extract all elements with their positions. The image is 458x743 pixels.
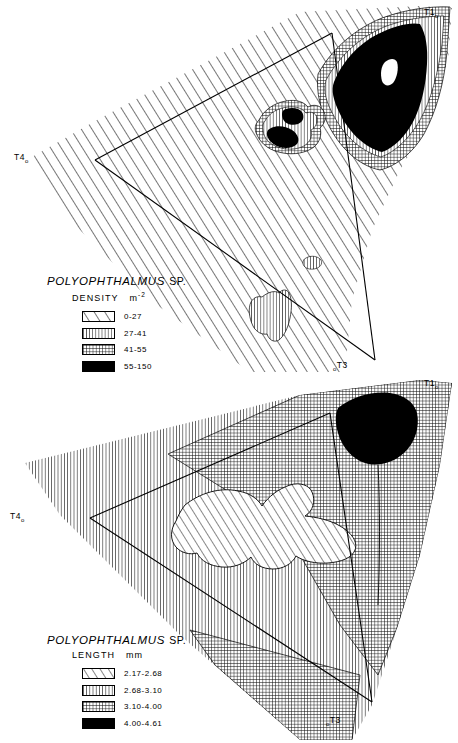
density-legend-units: DENSITY m-2: [72, 291, 186, 303]
legend-row: 55-150: [82, 360, 186, 373]
panel-length: T1o T4o oT3 POLYOPHTHALMUS SP. LENGTH mm: [0, 375, 458, 743]
length-corner-label-t1: T1o: [424, 378, 439, 390]
density-legend: POLYOPHTHALMUS SP. DENSITY m-2 0-27: [47, 271, 186, 376]
swatch-crosshatch-icon: [82, 701, 115, 712]
swatch-vertical-lines-icon: [82, 685, 115, 696]
figure-root: T1o T4o oT3 POLYOPHTHALMUS SP. DENSITY m…: [0, 0, 458, 743]
length-corner-label-t4: T4o: [10, 511, 25, 523]
legend-label: 0-27: [124, 312, 142, 321]
legend-label: 41-55: [124, 345, 147, 354]
legend-label: 4.00-4.61: [124, 719, 162, 728]
density-corner-label-t3: oT3: [333, 360, 348, 372]
density-legend-rows: 0-27 27-41 41-55 55-150: [82, 310, 186, 373]
density-corner-label-t4: T4o: [14, 152, 29, 164]
density-legend-title: POLYOPHTHALMUS SP.: [47, 271, 186, 289]
swatch-vertical-lines-icon: [82, 328, 115, 339]
legend-label: 2.68-3.10: [124, 686, 162, 695]
legend-row: 41-55: [82, 343, 186, 356]
swatch-crosshatch-icon: [82, 344, 115, 355]
length-corner-label-t3: oT3: [326, 715, 341, 727]
swatch-diagonal-hatch-icon: [82, 311, 115, 322]
swatch-solid-black-icon: [82, 718, 115, 729]
density-corner-label-t1: T1o: [424, 7, 439, 19]
legend-label: 3.10-4.00: [124, 702, 162, 711]
density-class-27-41-patch-mid: [303, 256, 322, 269]
legend-row: 2.17-2.68: [82, 667, 186, 680]
legend-label: 2.17-2.68: [124, 669, 162, 678]
legend-row: 4.00-4.61: [82, 717, 186, 730]
panel-density: T1o T4o oT3 POLYOPHTHALMUS SP. DENSITY m…: [0, 0, 458, 375]
legend-row: 2.68-3.10: [82, 684, 186, 697]
length-legend-rows: 2.17-2.68 2.68-3.10 3.10-4.00 4.00-: [82, 667, 186, 730]
length-legend-title: POLYOPHTHALMUS SP.: [47, 630, 186, 648]
length-legend-units: LENGTH mm: [72, 650, 186, 660]
legend-row: 27-41: [82, 327, 186, 340]
legend-row: 0-27: [82, 310, 186, 323]
length-legend: POLYOPHTHALMUS SP. LENGTH mm 2.17-2.68: [47, 630, 186, 733]
legend-label: 27-41: [124, 329, 147, 338]
swatch-diagonal-hatch-icon: [82, 668, 115, 679]
legend-label: 55-150: [124, 362, 152, 371]
legend-row: 3.10-4.00: [82, 700, 186, 713]
swatch-solid-black-icon: [82, 361, 115, 372]
